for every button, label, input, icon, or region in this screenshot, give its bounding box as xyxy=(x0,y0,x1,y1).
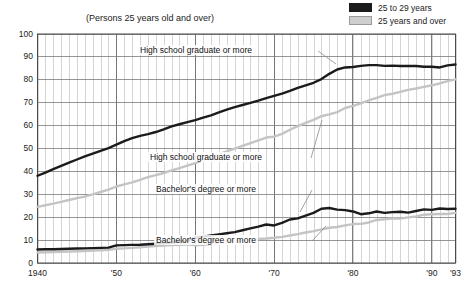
chart-annotation-ba-25over: Bachelor's degree or more xyxy=(154,235,258,245)
x-axis-tick-label: '80 xyxy=(347,268,358,278)
x-axis-tick-label: 1940 xyxy=(28,268,47,278)
chart-annotation-hs-25over: High school graduate or more xyxy=(148,152,264,162)
x-axis-tick-label: '70 xyxy=(269,268,280,278)
x-axis-tick-label: '50 xyxy=(111,268,122,278)
chart-annotation-hs-25to29: High school graduate or more xyxy=(138,45,254,55)
chart-container: (Persons 25 years old and over) 25 to 29… xyxy=(0,0,469,286)
x-axis-tick-label: '90 xyxy=(426,268,437,278)
chart-annotation-ba-25to29: Bachelor's degree or more xyxy=(154,184,258,194)
x-axis-tick-label: '60 xyxy=(190,268,201,278)
x-axis-tick-label: '93 xyxy=(450,268,461,278)
